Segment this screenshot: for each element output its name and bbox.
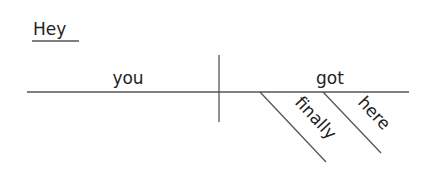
sentence-diagram: Hey you got finally here [0,0,427,175]
subject-word: you [112,68,143,88]
verb-word: got [316,68,344,88]
interjection-word: Hey [33,19,66,39]
modifier-word-finally: finally [291,92,341,143]
modifier-word-here: here [354,92,395,134]
